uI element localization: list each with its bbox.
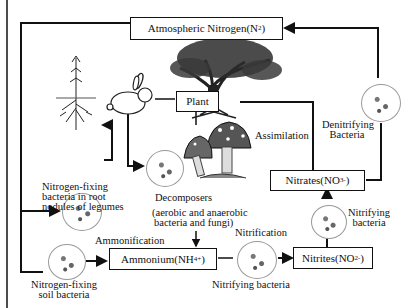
- label-line: soil bacteria: [28, 290, 100, 300]
- nitrites-box: Nitrites(NO2-): [293, 247, 373, 269]
- nitrates-box: Nitrates(NO3-): [270, 170, 365, 191]
- bacteria-circle-icon: [146, 150, 184, 187]
- rabbit-icon: [107, 72, 152, 114]
- root-bacteria-label: Nitrogen-fixing bacteria in root nodules…: [42, 182, 124, 212]
- nitrifying-bacteria-right-label: Nitrifying bacteria: [344, 208, 394, 228]
- legume-plant-icon: [56, 56, 96, 130]
- decomposers-label: Decomposers: [155, 193, 212, 203]
- bacteria-circle-icon: [48, 244, 86, 280]
- decomposers-sub-label: (aerobic and anaerobic bacteria and fung…: [152, 208, 248, 228]
- label-line: nodules of legumes: [42, 202, 124, 212]
- ammonium-box: Ammonium(NH4+): [109, 248, 217, 270]
- box-label-tail: ): [262, 23, 266, 34]
- bacteria-circle-icon: [311, 205, 347, 239]
- label-line: bacteria and fungi): [152, 218, 248, 228]
- box-label-tail: ): [346, 175, 350, 186]
- box-label: Ammonium(NH: [121, 254, 194, 265]
- atmospheric-nitrogen-box: Atmospheric Nitrogen(N2): [130, 17, 283, 40]
- nitrification-label: Nitrification: [235, 228, 287, 238]
- soil-bacteria-label: Nitrogen-fixing soil bacteria: [28, 280, 100, 300]
- denitrifying-bacteria-label: Denitrifying Bacteria: [322, 120, 372, 140]
- plant-box: Plant: [176, 91, 219, 112]
- box-label-tail: ): [360, 253, 364, 264]
- ammonification-label: Ammonification: [95, 236, 164, 246]
- box-label: Nitrites(NO: [302, 253, 355, 264]
- bacteria-circle-icon: [237, 241, 277, 279]
- assimilation-label: Assimilation: [255, 131, 309, 141]
- box-label-tail: ): [201, 254, 205, 265]
- box-label: Plant: [186, 96, 209, 107]
- label-line: bacteria: [344, 218, 394, 228]
- box-label: Nitrates(NO: [286, 175, 340, 186]
- bacteria-circle-icon: [361, 84, 401, 122]
- mushroom-icon: [184, 122, 251, 178]
- label-line: Bacteria: [322, 130, 372, 140]
- box-label: Atmospheric Nitrogen(N: [148, 23, 258, 34]
- nitrifying-bacteria-bottom-label: Nitrifying bacteria: [212, 280, 290, 290]
